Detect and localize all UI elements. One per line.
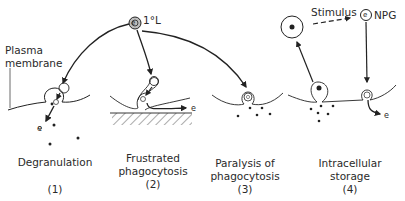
caption-panel-4-line2: storage: [305, 170, 395, 183]
enzyme-label-npg: e: [363, 9, 367, 21]
caption-panel-2: Frustrated phagocytosis: [110, 152, 196, 178]
caption-panel-4: Intracellular storage: [305, 157, 395, 183]
caption-panel-2-line2: phagocytosis: [110, 165, 196, 178]
number-panel-2: (2): [110, 178, 196, 190]
enzyme-label-panel-1: e: [37, 123, 42, 135]
number-panel-4: (4): [305, 183, 395, 195]
enzyme-label-panel-2: e: [191, 103, 196, 115]
panel-4-intracellular-storage: [281, 10, 396, 123]
plasma-membrane-label-line2: membrane: [5, 57, 62, 69]
stimulus-label: Stimulus: [311, 6, 357, 18]
arrow-to-panel-2: [137, 30, 151, 74]
primary-lysosome-label: 1°L: [143, 14, 161, 26]
panel-3-paralysis: [212, 92, 283, 117]
enzyme-label-panel-4: e: [384, 110, 389, 122]
arrow-to-panel-1: [63, 24, 129, 83]
number-panel-1: (1): [12, 183, 98, 195]
number-panel-3: (3): [205, 183, 285, 195]
caption-panel-1: Degranulation: [12, 156, 98, 169]
caption-panel-3: Paralysis of phagocytosis: [205, 157, 285, 183]
caption-panel-3-line1: Paralysis of: [205, 157, 285, 170]
npg-label: NPG: [374, 9, 396, 21]
panel-2-frustrated-phagocytosis: [110, 77, 192, 126]
enzyme-label-lysosome: e: [131, 17, 135, 29]
caption-panel-3-line2: phagocytosis: [205, 170, 285, 183]
caption-panel-4-line1: Intracellular: [305, 157, 395, 170]
plasma-membrane-label-line1: Plasma: [5, 44, 43, 56]
caption-panel-2-line1: Frustrated: [110, 152, 196, 165]
panel-1-degranulation: [8, 83, 90, 146]
caption-panel-1-line1: Degranulation: [12, 156, 98, 169]
